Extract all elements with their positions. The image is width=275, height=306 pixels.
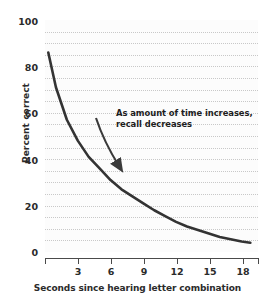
- x-tick-label-3: 3: [66, 266, 90, 277]
- x-tick-3: [78, 258, 79, 264]
- x-tick-15: [210, 258, 211, 264]
- x-tick-6: [111, 258, 112, 264]
- x-tick-label-12: 12: [165, 266, 189, 277]
- trend-annotation: As amount of time increases, recall decr…: [116, 108, 268, 130]
- x-axis-title: Seconds since hearing letter combination: [0, 283, 275, 293]
- annotation-line-1: As amount of time increases,: [116, 108, 268, 119]
- x-tick-label-9: 9: [132, 266, 156, 277]
- x-axis-line: [45, 258, 258, 259]
- x-tick-origin: [45, 258, 46, 264]
- x-tick-end: [258, 258, 259, 264]
- chart-figure: Percent correct 100 80 60 40 20 0: [0, 0, 275, 306]
- x-tick-label-18: 18: [231, 266, 255, 277]
- x-tick-label-15: 15: [198, 266, 222, 277]
- annotation-arrow-svg: [0, 0, 275, 306]
- annotation-line-2: recall decreases: [116, 119, 268, 130]
- x-tick-12: [177, 258, 178, 264]
- x-tick-9: [144, 258, 145, 264]
- x-tick-18: [243, 258, 244, 264]
- x-tick-label-6: 6: [99, 266, 123, 277]
